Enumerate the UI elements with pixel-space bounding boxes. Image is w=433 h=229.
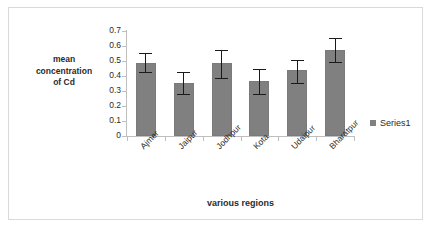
- legend-label-series1: Series1: [380, 118, 411, 128]
- y-tick-mark: [122, 61, 126, 62]
- error-bar-cap-lower: [253, 94, 266, 95]
- y-tick-mark: [122, 46, 126, 47]
- y-tick-label: 0: [99, 130, 121, 140]
- x-tick-mark: [165, 137, 166, 141]
- y-axis-tick-labels: 0.70.60.50.40.30.20.10: [97, 8, 121, 229]
- y-tick-mark: [122, 121, 126, 122]
- x-tick-mark: [316, 137, 317, 141]
- chart-container: mean concentration of Cd 0.70.60.50.40.3…: [8, 7, 423, 220]
- y-tick-label: 0.2: [99, 100, 121, 110]
- y-tick-mark: [122, 76, 126, 77]
- error-bar-line: [297, 60, 298, 83]
- x-tick-mark: [354, 137, 355, 141]
- y-axis-title-line-1: mean: [23, 54, 105, 66]
- x-tick-mark: [278, 137, 279, 141]
- y-tick-mark: [122, 31, 126, 32]
- legend-swatch-series1: [370, 120, 376, 126]
- y-axis-title-line-2: concentration: [23, 66, 105, 78]
- error-bar-cap-upper: [215, 50, 228, 51]
- x-tick-mark: [127, 137, 128, 141]
- bar-group[interactable]: [174, 31, 194, 136]
- y-tick-label: 0.3: [99, 85, 121, 95]
- y-tick-mark: [122, 106, 126, 107]
- bar-group[interactable]: [136, 31, 156, 136]
- bar-group[interactable]: [212, 31, 232, 136]
- error-bar-cap-lower: [139, 72, 152, 73]
- error-bar-cap-upper: [291, 60, 304, 61]
- bar-group[interactable]: [325, 31, 345, 136]
- y-tick-label: 0.5: [99, 55, 121, 65]
- error-bar-line: [183, 72, 184, 95]
- bar-ajmer[interactable]: [136, 63, 156, 137]
- x-axis-title: various regions: [127, 198, 354, 208]
- x-tick-mark: [241, 137, 242, 141]
- error-bar-cap-upper: [253, 69, 266, 70]
- error-bar-cap-lower: [329, 62, 342, 63]
- bar-group[interactable]: [249, 31, 269, 136]
- y-axis-title: mean concentration of Cd: [23, 54, 105, 89]
- plot-area: [127, 31, 354, 136]
- x-tick-mark: [203, 137, 204, 141]
- y-tick-label: 0.1: [99, 115, 121, 125]
- error-bar-line: [259, 69, 260, 95]
- y-tick-label: 0.6: [99, 40, 121, 50]
- error-bar-cap-lower: [177, 94, 190, 95]
- error-bar-line: [335, 38, 336, 62]
- y-axis-title-line-3: of Cd: [23, 77, 105, 89]
- error-bar-cap-lower: [215, 78, 228, 79]
- error-bar-cap-upper: [139, 53, 152, 54]
- error-bar-cap-lower: [291, 83, 304, 84]
- y-tick-label: 0.4: [99, 70, 121, 80]
- y-tick-label: 0.7: [99, 25, 121, 35]
- bar-group[interactable]: [287, 31, 307, 136]
- y-tick-mark: [122, 91, 126, 92]
- error-bar-cap-upper: [177, 72, 190, 73]
- y-tick-mark: [122, 136, 126, 137]
- error-bar-cap-upper: [329, 38, 342, 39]
- error-bar-line: [145, 53, 146, 72]
- error-bar-line: [221, 50, 222, 78]
- chart-legend: Series1: [370, 118, 411, 128]
